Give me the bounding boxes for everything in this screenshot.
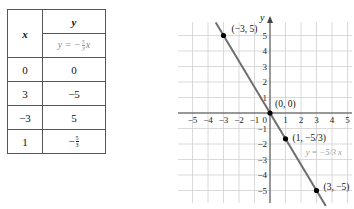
origin-label: 0 xyxy=(263,115,268,125)
x-tick-label: −3 xyxy=(219,115,229,125)
x-tick-label: 4 xyxy=(330,115,335,125)
y-tick-label: −5 xyxy=(257,186,267,196)
point-label: (3, −5) xyxy=(324,182,350,193)
x-tick-label: −5 xyxy=(188,115,198,125)
y-tick-label: 4 xyxy=(263,46,268,56)
x-tick-label: −4 xyxy=(203,115,213,125)
line-equation-label: y = −5/3 x xyxy=(305,147,342,157)
point-label: (−3, 5) xyxy=(232,24,258,35)
y-tick-label: −2 xyxy=(257,139,267,149)
line-chart: y−5−4−3−2−112345−5−4−3−2−1123450(−3, 5)(… xyxy=(0,0,354,209)
y-tick-label: 3 xyxy=(263,62,268,72)
y-tick-label: −3 xyxy=(257,155,267,165)
y-tick-label: −1 xyxy=(257,124,267,134)
y-tick-label: 2 xyxy=(263,77,268,87)
x-tick-label: 5 xyxy=(345,115,350,125)
point-label: (0, 0) xyxy=(275,99,296,110)
data-point xyxy=(314,188,319,193)
point-label: (1, −5/3) xyxy=(293,133,326,144)
data-point xyxy=(283,136,288,141)
data-point xyxy=(221,33,226,38)
x-tick-label: 2 xyxy=(299,115,304,125)
y-axis-label: y xyxy=(259,12,265,23)
data-point xyxy=(267,110,272,115)
x-tick-label: 1 xyxy=(283,115,288,125)
y-tick-label: −4 xyxy=(257,170,267,180)
x-tick-label: −2 xyxy=(234,115,244,125)
y-axis-arrow-icon xyxy=(267,16,273,23)
x-tick-label: 3 xyxy=(314,115,319,125)
y-tick-label: 5 xyxy=(263,31,268,41)
